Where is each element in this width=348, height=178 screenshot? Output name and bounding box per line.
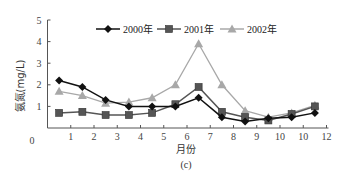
x-axis-label: 月份 [176, 144, 196, 155]
square-marker [195, 83, 202, 90]
y-tick-label: 5 [37, 15, 42, 26]
y-tick-label: 3 [37, 58, 42, 69]
triangle-marker [148, 93, 157, 101]
line-chart: 012345 123456789101012 2000年2001年2002年 氨… [0, 0, 348, 178]
y-tick-label: 0 [30, 135, 35, 146]
x-tick-label: 10 [275, 131, 285, 142]
legend-label: 2002年 [247, 23, 277, 35]
x-tick-label: 12 [322, 131, 332, 142]
x-tick-label: 9 [254, 131, 259, 142]
legend-item: 2002年 [220, 23, 277, 35]
x-tick-label: 7 [208, 131, 213, 142]
legend-label: 2000年 [123, 23, 153, 35]
square-marker [125, 112, 132, 119]
x-tick-label: 2 [92, 131, 97, 142]
x-tick-label: 4 [138, 131, 143, 142]
x-tick-label: 8 [231, 131, 236, 142]
y-axis-label: 氨氮(mg/L) [14, 59, 26, 112]
triangle-marker [194, 39, 203, 47]
x-tick-label: 10 [298, 131, 308, 142]
axes [48, 20, 329, 128]
legend: 2000年2001年2002年 [96, 23, 277, 35]
y-tick-label: 4 [37, 36, 42, 47]
diamond-marker [104, 25, 112, 33]
triangle-marker [171, 80, 180, 88]
figure-caption: (c) [180, 159, 191, 171]
data-series [55, 39, 320, 125]
triangle-marker [217, 80, 226, 88]
square-marker [166, 26, 173, 33]
x-tick-label: 6 [185, 131, 190, 142]
diamond-marker [78, 83, 86, 91]
square-marker [311, 103, 318, 110]
series-2002年 [55, 39, 320, 120]
triangle-marker [55, 87, 64, 95]
x-tick-label: 5 [161, 131, 166, 142]
legend-label: 2001年 [184, 23, 214, 35]
legend-item: 2000年 [96, 23, 153, 35]
y-tick-label: 2 [37, 79, 42, 90]
square-marker [79, 108, 86, 115]
square-marker [102, 112, 109, 119]
square-marker [56, 109, 63, 116]
x-tick-label: 3 [115, 131, 120, 142]
diamond-marker [55, 76, 63, 84]
x-tick-label: 1 [68, 131, 73, 142]
legend-item: 2001年 [157, 23, 214, 35]
y-tick-label: 1 [37, 101, 42, 112]
series-2000年 [55, 76, 319, 125]
square-marker [149, 109, 156, 116]
